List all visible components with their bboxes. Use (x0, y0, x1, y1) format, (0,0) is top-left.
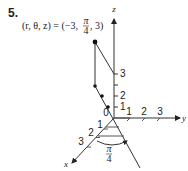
problem-number: 5. (8, 6, 18, 20)
cylindrical-coordinates-diagram: 5. (r, θ, z) = (−3, π 4 , 3) z 1 2 3 y 1… (0, 0, 188, 171)
z-tick-label-3: 3 (120, 68, 126, 79)
plotted-point (93, 40, 98, 45)
y-tick-label-3: 3 (157, 106, 163, 117)
x-tick-label-1: 1 (97, 119, 103, 130)
x-axis-label: x (63, 159, 68, 169)
x-tick-label-3: 3 (78, 136, 84, 147)
equation-lhs: (r, θ, z) = (−3, (22, 20, 78, 32)
angle-arc (97, 141, 127, 145)
equation-rhs: , 3) (90, 20, 103, 32)
x-tick-label-2: 2 (88, 127, 94, 138)
point-to-z-line (95, 42, 114, 74)
y-axis-label: y (181, 113, 186, 123)
angle-den: 4 (107, 153, 112, 164)
y-tick-label-1: 1 (126, 106, 132, 117)
z-tick-label-2: 2 (120, 90, 126, 101)
equation-frac-den: 4 (84, 25, 89, 36)
y-tick-label-2: 2 (141, 106, 147, 117)
ray-dot-1 (106, 105, 110, 109)
ray-dot-2 (100, 94, 104, 98)
z-axis-label: z (111, 4, 116, 14)
z-tick-label-1: 1 (120, 101, 126, 112)
